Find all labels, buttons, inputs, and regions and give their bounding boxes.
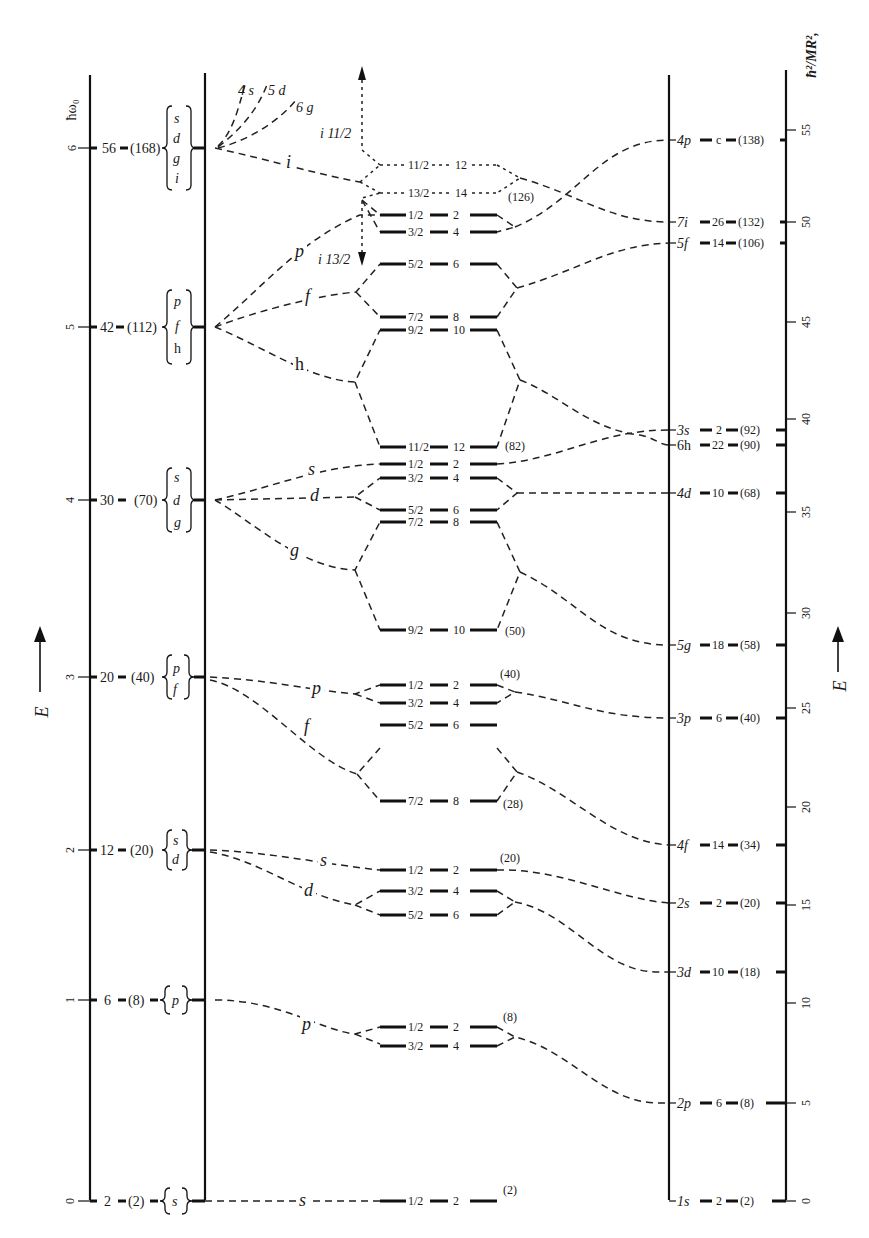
svg-text:0: 0: [799, 1198, 813, 1204]
svg-text:18: 18: [712, 638, 724, 652]
svg-text:56: 56: [102, 141, 116, 156]
svg-text:4: 4: [453, 1039, 459, 1053]
svg-text:h: h: [295, 354, 304, 374]
svg-text:2: 2: [453, 678, 459, 692]
so-level: 3/2 4: [380, 471, 497, 485]
svg-text:1/2: 1/2: [408, 863, 423, 877]
svg-text:8: 8: [453, 310, 459, 324]
svg-text:d: d: [310, 485, 320, 505]
svg-text:4: 4: [453, 471, 459, 485]
so-level: 5/2 6: [380, 257, 497, 271]
svg-text:d: d: [172, 852, 180, 867]
svg-text:6: 6: [453, 257, 459, 271]
svg-text:s: s: [174, 470, 180, 485]
svg-text:E: E: [32, 707, 52, 719]
so-level: 3/2 4: [380, 884, 497, 898]
so-level: 1/2 2: [380, 1194, 497, 1208]
svg-text:2: 2: [716, 423, 722, 437]
svg-text:9/2: 9/2: [408, 623, 423, 637]
svg-text:25: 25: [799, 702, 813, 714]
sw-level: 4d 10 (68): [669, 486, 786, 501]
svg-text:11/2: 11/2: [408, 158, 429, 172]
svg-text:3/2: 3/2: [408, 696, 423, 710]
so-level: 5/2 6: [380, 908, 497, 922]
so-level-dotted: 11/2 12: [380, 158, 497, 172]
svg-text:3: 3: [63, 674, 77, 680]
svg-text:2s: 2s: [677, 896, 690, 911]
svg-text:d: d: [304, 880, 314, 900]
so-level: 7/2 8: [380, 794, 497, 808]
branch-labels: s p s d p f s d g p f h i: [284, 152, 332, 1210]
square-well-levels: 1s 2 (2) 2p 6 (8) 3d 10 (18) 2s 2 (20): [669, 133, 786, 1209]
svg-text:6: 6: [104, 993, 111, 1008]
svg-text:(82): (82): [505, 439, 525, 453]
svg-text:7/2: 7/2: [408, 794, 423, 808]
svg-text:6h: 6h: [677, 438, 691, 453]
svg-text:1/2: 1/2: [408, 457, 423, 471]
arrow-up-icon: [34, 626, 46, 642]
svg-text:s: s: [172, 1194, 178, 1209]
so-level: 1/2 2: [380, 678, 497, 692]
svg-text:9/2: 9/2: [408, 323, 423, 337]
svg-text:35: 35: [799, 506, 813, 518]
shell-model-diagram: 0 1 2 3 4 5 6 ħω₀ E 2 (2) s 6 (8): [0, 0, 869, 1238]
svg-text:(68): (68): [740, 486, 760, 500]
svg-text:8: 8: [453, 515, 459, 529]
sw-level: 5f 14 (106): [669, 236, 786, 251]
svg-text:(168): (168): [130, 141, 161, 157]
svg-text:1s: 1s: [677, 1194, 690, 1209]
svg-text:(8): (8): [128, 993, 145, 1009]
svg-text:10: 10: [799, 997, 813, 1009]
svg-text:f: f: [173, 682, 179, 697]
svg-text:3/2: 3/2: [408, 225, 423, 239]
svg-text:2: 2: [453, 208, 459, 222]
connection-lines: [205, 73, 669, 1201]
sw-level: 6h 22 (90): [669, 438, 786, 453]
svg-text:p: p: [310, 678, 321, 698]
svg-text:3d: 3d: [676, 965, 692, 980]
svg-text:2: 2: [453, 863, 459, 877]
svg-text:50: 50: [799, 216, 813, 228]
svg-text:4f: 4f: [677, 838, 690, 853]
left-energy-arrow: E: [32, 626, 52, 719]
oscillator-level-1: 6 (8) p: [90, 986, 205, 1014]
svg-text:d: d: [173, 493, 181, 508]
svg-text:h: h: [174, 341, 181, 356]
svg-text:5g: 5g: [677, 638, 691, 653]
svg-text:20: 20: [100, 670, 114, 685]
svg-text:6 g: 6 g: [296, 100, 314, 115]
oscillator-level-4: 30 (70) s d g: [90, 468, 205, 532]
svg-text:40: 40: [799, 413, 813, 425]
sw-level: 4f 14 (34): [669, 838, 786, 853]
so-level: 5/2 6: [380, 503, 497, 517]
svg-text:7/2: 7/2: [408, 310, 423, 324]
svg-text:2: 2: [716, 1194, 722, 1208]
svg-text:22: 22: [712, 438, 724, 452]
so-level: 3/2 4: [380, 696, 497, 710]
svg-text:(40): (40): [740, 711, 760, 725]
svg-text:3/2: 3/2: [408, 1039, 423, 1053]
so-level: 3/2 4: [380, 225, 497, 239]
hbar-sq-label: ħ²/MR²,: [804, 32, 819, 77]
svg-text:(40): (40): [131, 670, 155, 686]
svg-text:(106): (106): [738, 236, 764, 250]
svg-text:(126): (126): [508, 190, 534, 204]
so-level: 9/2 10: [380, 323, 497, 337]
sw-level: 1s 2 (2): [669, 1194, 786, 1209]
svg-text:p: p: [173, 294, 181, 309]
svg-text:1/2: 1/2: [408, 1020, 423, 1034]
svg-text:3/2: 3/2: [408, 884, 423, 898]
svg-text:4: 4: [453, 225, 459, 239]
svg-text:2p: 2p: [677, 1096, 691, 1111]
svg-text:5/2: 5/2: [408, 257, 423, 271]
svg-text:(8): (8): [503, 1010, 517, 1024]
svg-text:1/2: 1/2: [408, 208, 423, 222]
so-level: 5/2 6: [380, 718, 497, 732]
so-level: 3/2 4: [380, 1039, 497, 1053]
svg-text:i: i: [286, 152, 291, 172]
arrow-down-icon: [358, 252, 366, 266]
svg-text:f: f: [175, 319, 181, 334]
left-axis-ticks: 0 1 2 3 4 5 6 ħω₀: [63, 99, 90, 1204]
so-level: 1/2 2: [380, 1020, 497, 1034]
svg-text:4 s: 4 s: [238, 83, 255, 98]
